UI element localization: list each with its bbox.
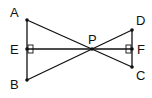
label-a: A <box>10 5 19 20</box>
label-b: B <box>10 77 19 92</box>
point-a <box>25 18 29 22</box>
point-e <box>25 47 29 51</box>
label-p: P <box>88 32 97 47</box>
segment-bd <box>27 30 132 80</box>
point-c <box>130 65 134 69</box>
label-c: C <box>136 68 145 83</box>
point-f <box>130 47 134 51</box>
point-p <box>90 47 94 51</box>
label-d: D <box>136 13 145 28</box>
geometry-diagram: A E B P D F C <box>0 0 152 98</box>
point-d <box>130 28 134 32</box>
label-e: E <box>10 42 19 57</box>
point-b <box>25 78 29 82</box>
label-f: F <box>137 42 145 57</box>
segment-ac <box>27 20 132 67</box>
